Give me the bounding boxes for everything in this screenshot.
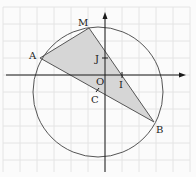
label-I: I <box>119 79 123 90</box>
label-C: C <box>91 94 99 105</box>
label-B: B <box>156 124 163 135</box>
diagram-canvas: M A J O I C B <box>0 0 196 177</box>
label-J: J <box>94 53 99 64</box>
y-axis-arrow-icon <box>103 12 108 19</box>
x-axis-arrow-icon <box>179 73 186 78</box>
label-M: M <box>78 17 88 28</box>
label-A: A <box>28 50 37 61</box>
geometry-figure: M A J O I C B <box>0 0 196 177</box>
label-O: O <box>96 76 104 87</box>
